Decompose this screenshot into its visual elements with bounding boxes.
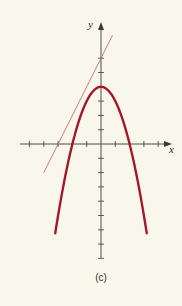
- x-axis-label: x: [169, 143, 174, 155]
- y-axis-arrow-icon: [98, 22, 104, 30]
- tangent-line: [44, 35, 113, 172]
- y-axis-label: y: [88, 18, 93, 30]
- figure: y x (c): [0, 0, 182, 306]
- figure-caption: (c): [0, 272, 182, 283]
- plot-area: [0, 0, 182, 306]
- axes: [20, 22, 172, 258]
